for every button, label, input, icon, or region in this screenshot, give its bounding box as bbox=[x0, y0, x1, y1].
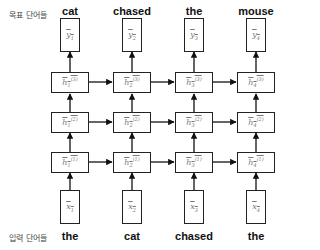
output-node-y3: y3 bbox=[184, 18, 204, 52]
output-node-y1: y1 bbox=[60, 18, 80, 52]
input-node-x2: x2 bbox=[122, 190, 142, 224]
hidden-node-h3-layer2: h3(2) bbox=[175, 112, 213, 133]
output-node-y4: y4 bbox=[246, 18, 266, 52]
hidden-node-h2-layer2: h2(2) bbox=[113, 112, 151, 133]
hidden-node-h4-layer2: h4(2) bbox=[237, 112, 275, 133]
input-node-x1: x1 bbox=[60, 190, 80, 224]
target-word-2: chased bbox=[102, 5, 162, 17]
input-node-x3: x3 bbox=[184, 190, 204, 224]
hidden-node-h1-layer3: h1(3) bbox=[51, 72, 89, 93]
hidden-node-h3-layer1: h3(1) bbox=[175, 152, 213, 173]
input-word-3: chased bbox=[164, 230, 224, 242]
hidden-node-h1-layer1: h1(1) bbox=[51, 152, 89, 173]
hidden-node-h2-layer1: h2(1) bbox=[113, 152, 151, 173]
hidden-node-h2-layer3: h2(3) bbox=[113, 72, 151, 93]
hidden-node-h3-layer3: h3(3) bbox=[175, 72, 213, 93]
hidden-node-h4-layer1: h4(1) bbox=[237, 152, 275, 173]
target-word-4: mouse bbox=[226, 5, 285, 17]
input-node-x4: x4 bbox=[246, 190, 266, 224]
input-word-4: the bbox=[226, 230, 285, 242]
output-node-y2: y2 bbox=[122, 18, 142, 52]
input-word-2: cat bbox=[102, 230, 162, 242]
hidden-node-h4-layer3: h4(3) bbox=[237, 72, 275, 93]
target-word-1: cat bbox=[40, 5, 100, 17]
target-word-3: the bbox=[164, 5, 224, 17]
hidden-node-h1-layer2: h1(2) bbox=[51, 112, 89, 133]
input-word-1: the bbox=[40, 230, 100, 242]
